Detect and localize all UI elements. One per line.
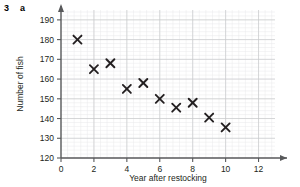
y-tick-label: 160 [40,74,54,84]
scatter-chart: 024681012 120130140150160170180190 Year … [0,0,300,187]
x-tick-label: 2 [92,164,97,174]
y-tick-label: 150 [40,94,54,104]
y-axis-title: Number of fish [15,56,25,112]
figure-container: 3 a 024681012 120130140150160170180190 [0,0,300,187]
y-tick-label: 180 [40,35,54,45]
x-tick-label: 0 [59,164,64,174]
y-axis-tick-labels: 120130140150160170180190 [40,15,54,163]
chart-svg: 024681012 120130140150160170180190 Year … [0,0,300,187]
x-axis-title: Year after restocking [129,173,207,183]
y-tick-label: 170 [40,54,54,64]
y-tick-label: 140 [40,114,54,124]
y-axis-arrow [58,4,64,12]
x-tick-label: 12 [254,164,264,174]
x-tick-label: 10 [221,164,231,174]
plot-background [61,10,275,158]
y-tick-label: 120 [40,153,54,163]
x-axis-arrow [280,155,287,161]
y-tick-label: 130 [40,133,54,143]
y-tick-label: 190 [40,15,54,25]
